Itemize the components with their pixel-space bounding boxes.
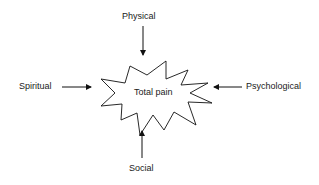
starburst-shape (101, 61, 212, 135)
label-psychological: Psychological (246, 81, 301, 91)
label-total-pain: Total pain (134, 87, 173, 97)
label-physical: Physical (122, 11, 156, 21)
label-social: Social (129, 163, 154, 173)
label-spiritual: Spiritual (19, 81, 52, 91)
